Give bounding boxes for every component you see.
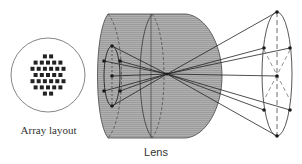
array-element bbox=[40, 73, 44, 77]
array-element bbox=[37, 67, 41, 71]
ray-dot bbox=[288, 108, 292, 112]
array-element bbox=[37, 79, 41, 83]
array-element bbox=[62, 79, 66, 83]
array-element bbox=[52, 85, 56, 89]
array-element bbox=[31, 79, 35, 83]
array-element bbox=[43, 92, 47, 96]
array-element bbox=[43, 79, 47, 83]
array-element bbox=[46, 61, 50, 65]
array-element bbox=[49, 54, 53, 58]
ray-dot bbox=[110, 44, 114, 48]
array-element bbox=[49, 79, 53, 83]
ray-dot bbox=[102, 59, 106, 63]
array-element bbox=[43, 67, 47, 71]
array-element bbox=[40, 85, 44, 89]
array-element bbox=[58, 73, 62, 77]
array-element bbox=[52, 73, 56, 77]
array-layout bbox=[11, 38, 85, 112]
array-element bbox=[62, 67, 66, 71]
ray-dot bbox=[110, 74, 114, 78]
ray-dot bbox=[288, 46, 292, 50]
array-element bbox=[52, 61, 56, 65]
lens-array-diagram bbox=[0, 0, 302, 164]
array-element bbox=[58, 85, 62, 89]
array-element bbox=[34, 85, 38, 89]
ray-dot bbox=[275, 134, 279, 138]
projection-ellipse bbox=[262, 12, 292, 136]
array-element bbox=[55, 67, 59, 71]
ray-dot bbox=[102, 89, 106, 93]
lens-label: Lens bbox=[136, 146, 176, 158]
array-element bbox=[34, 61, 38, 65]
array-element bbox=[31, 67, 35, 71]
array-element bbox=[58, 61, 62, 65]
ray-dot bbox=[118, 59, 122, 63]
array-element bbox=[46, 73, 50, 77]
ray-dot bbox=[275, 74, 279, 78]
array-element bbox=[49, 67, 53, 71]
array-element bbox=[49, 92, 53, 96]
focal-point bbox=[165, 72, 168, 75]
array-element bbox=[55, 79, 59, 83]
ray-dot bbox=[110, 104, 114, 108]
array-element bbox=[40, 61, 44, 65]
array-layout-label: Array layout bbox=[0, 124, 97, 136]
array-element bbox=[34, 73, 38, 77]
ray-dot bbox=[275, 10, 279, 14]
ray-dot bbox=[118, 89, 122, 93]
array-element bbox=[46, 85, 50, 89]
ray-dot bbox=[262, 46, 266, 50]
array-element bbox=[43, 54, 47, 58]
ray-dot bbox=[262, 108, 266, 112]
